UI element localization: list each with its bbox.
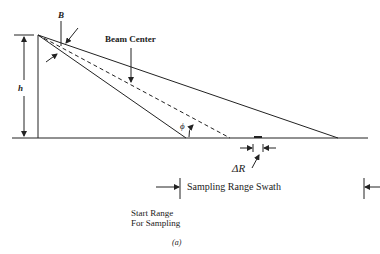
beam-center-line <box>38 35 230 138</box>
beam-width-arrow-top <box>66 28 78 43</box>
beam-near-edge <box>38 35 186 138</box>
delta-r-pointer <box>252 155 259 168</box>
beam-center-label: Beam Center <box>105 34 156 44</box>
start-range-label-line2: For Sampling <box>131 218 180 228</box>
angle-label: ϕ <box>180 121 185 131</box>
figure-caption: (a) <box>172 238 181 248</box>
delta-r-label: ΔR <box>232 163 245 173</box>
beam-far-edge <box>38 35 338 138</box>
beam-width-arrow-bottom <box>46 54 57 62</box>
angle-arc <box>189 125 193 137</box>
height-label: h <box>18 83 23 93</box>
start-range-label-line1: Start Range <box>131 208 173 218</box>
beam-width-label: B <box>58 10 64 20</box>
swath-label: Sampling Range Swath <box>187 182 281 192</box>
radar-geometry-diagram <box>0 0 380 254</box>
